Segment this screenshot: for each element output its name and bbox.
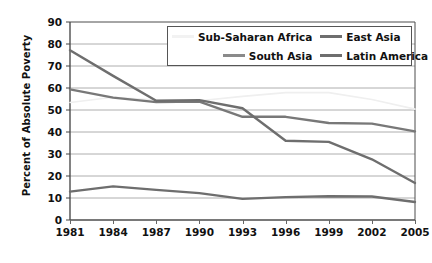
y-tick-label: 20 — [36, 170, 62, 182]
y-tick-label: 50 — [36, 104, 62, 116]
series-line-latin-america — [70, 186, 415, 202]
x-tick-label: 1987 — [142, 226, 171, 238]
y-tick-mark — [66, 44, 70, 45]
y-tick-label: 70 — [36, 60, 62, 72]
legend-item-east-asia: East Asia — [316, 27, 432, 46]
legend-item-south-asia: South Asia — [168, 46, 316, 65]
x-tick-label: 2002 — [357, 226, 386, 238]
x-tick-label: 1999 — [314, 226, 343, 238]
y-tick-mark — [66, 198, 70, 199]
x-tick-mark — [415, 220, 416, 224]
y-tick-label: 60 — [36, 82, 62, 94]
x-tick-mark — [372, 220, 373, 224]
gridlines — [70, 44, 415, 198]
x-tick-label: 1993 — [228, 226, 257, 238]
legend-swatch-south-asia — [223, 54, 245, 57]
legend-label-latin-america: Latin America — [346, 50, 428, 62]
x-tick-label: 1990 — [185, 226, 214, 238]
y-tick-label: 30 — [36, 148, 62, 160]
legend-swatch-latin-america — [320, 54, 342, 57]
legend-item-sub-saharan-africa: Sub-Saharan Africa — [168, 27, 316, 46]
y-tick-mark — [66, 154, 70, 155]
poverty-line-chart: Percent of Absolute Poverty 010203040506… — [0, 0, 432, 263]
legend-label-south-asia: South Asia — [249, 50, 312, 62]
x-tick-mark — [156, 220, 157, 224]
legend: Sub-Saharan Africa East Asia South Asia … — [167, 26, 412, 66]
x-tick-mark — [286, 220, 287, 224]
x-tick-label: 1984 — [99, 226, 128, 238]
x-tick-mark — [70, 220, 71, 224]
y-tick-mark — [66, 66, 70, 67]
series-lines — [70, 50, 415, 202]
x-tick-mark — [199, 220, 200, 224]
legend-label-east-asia: East Asia — [346, 31, 400, 43]
y-tick-label: 0 — [36, 214, 62, 226]
x-tick-mark — [113, 220, 114, 224]
x-tick-mark — [243, 220, 244, 224]
legend-swatch-sub-saharan-africa — [172, 35, 194, 38]
y-tick-label: 10 — [36, 192, 62, 204]
x-tick-label: 2005 — [400, 226, 429, 238]
y-tick-label: 90 — [36, 16, 62, 28]
y-tick-mark — [66, 88, 70, 89]
y-tick-mark — [66, 22, 70, 23]
legend-item-latin-america: Latin America — [316, 46, 432, 65]
x-tick-mark — [329, 220, 330, 224]
legend-swatch-east-asia — [320, 35, 342, 38]
y-axis-title: Percent of Absolute Poverty — [21, 26, 32, 206]
x-tick-label: 1981 — [55, 226, 84, 238]
y-tick-mark — [66, 176, 70, 177]
y-tick-label: 80 — [36, 38, 62, 50]
x-tick-label: 1996 — [271, 226, 300, 238]
y-tick-label: 40 — [36, 126, 62, 138]
series-line-sub-saharan-africa — [70, 93, 415, 110]
y-tick-mark — [66, 132, 70, 133]
y-tick-mark — [66, 110, 70, 111]
legend-label-sub-saharan-africa: Sub-Saharan Africa — [198, 31, 312, 43]
